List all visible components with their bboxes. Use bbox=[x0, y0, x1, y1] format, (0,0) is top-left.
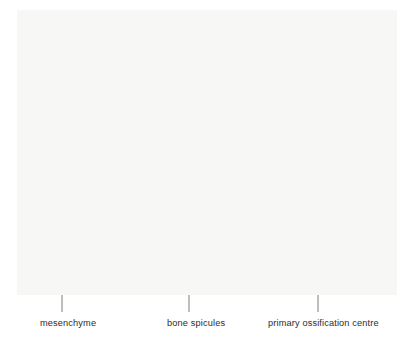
ossification-diagram: mesenchyme bone spicules primary ossific… bbox=[0, 0, 414, 358]
diagram-panel bbox=[17, 10, 397, 295]
label-primary-ossification-centre: primary ossification centre bbox=[268, 318, 379, 328]
label-mesenchyme: mesenchyme bbox=[40, 318, 96, 328]
label-bone-spicules: bone spicules bbox=[167, 318, 225, 328]
